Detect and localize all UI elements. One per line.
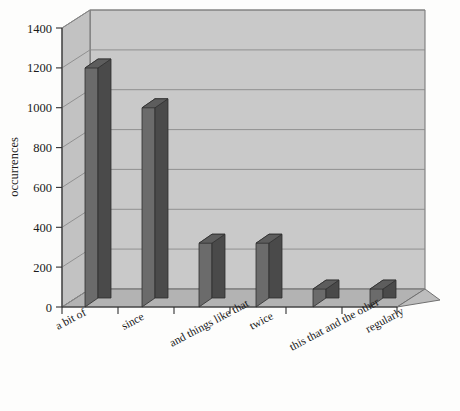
bar-front-face bbox=[256, 234, 269, 307]
bar-group bbox=[199, 234, 225, 307]
plot-area-3d bbox=[62, 10, 440, 307]
y-tick-label: 0 bbox=[46, 301, 52, 315]
bar-front-face bbox=[142, 99, 155, 307]
y-tick-label: 1000 bbox=[27, 101, 52, 115]
y-tick-label: 800 bbox=[33, 141, 52, 155]
y-tick-label: 200 bbox=[33, 261, 52, 275]
y-tick-label: 1200 bbox=[27, 61, 52, 75]
bar-chart: 1400 1200 1000 800 600 400 200 0 occurre… bbox=[0, 0, 460, 411]
bar-group bbox=[256, 234, 282, 307]
y-tick-label: 600 bbox=[33, 181, 52, 195]
chart-canvas: 1400 1200 1000 800 600 400 200 0 occurre… bbox=[0, 0, 460, 411]
bar-front-face bbox=[199, 234, 212, 307]
bar-side-face bbox=[212, 234, 225, 298]
bar-front-face bbox=[85, 59, 98, 307]
bar-group bbox=[85, 59, 111, 307]
bar-side-face bbox=[98, 59, 111, 298]
y-tick-label: 1400 bbox=[27, 22, 52, 36]
y-tick-label: 400 bbox=[33, 221, 52, 235]
y-axis-title: occurrences bbox=[7, 137, 21, 197]
bar-group bbox=[142, 99, 168, 307]
bar-side-face bbox=[155, 99, 168, 298]
bar-side-face bbox=[269, 234, 282, 298]
